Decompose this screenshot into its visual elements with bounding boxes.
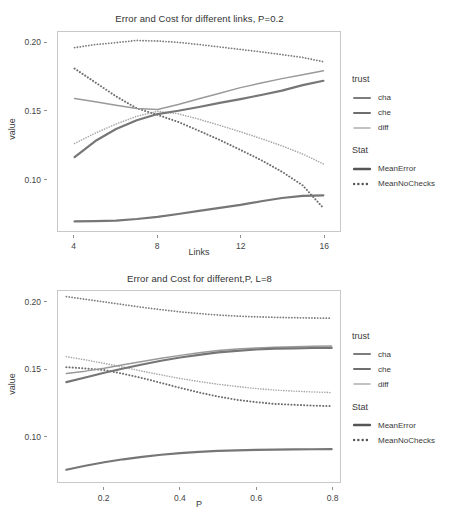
series-line xyxy=(75,40,324,61)
chart-figure-links: Error and Cost for different links, P=0.… xyxy=(0,0,449,261)
y-tick-mark xyxy=(44,301,47,302)
legend-item-label: MeanNoChecks xyxy=(378,436,435,445)
x-axis-title-1: Links xyxy=(57,247,341,257)
y-tick-label: 0.15 xyxy=(24,364,41,374)
legend-item-label: cha xyxy=(378,93,391,102)
legend-key-icon xyxy=(352,92,372,104)
legend-key-icon xyxy=(352,434,372,446)
y-axis-title-2: value xyxy=(7,354,17,414)
x-tick-mark xyxy=(324,235,325,238)
legend-item-label: MeanNoChecks xyxy=(378,179,435,188)
y-tick-mark xyxy=(44,369,47,370)
y-tick-label: 0.20 xyxy=(24,297,41,307)
x-tick-mark xyxy=(73,235,74,238)
y-tick-mark xyxy=(44,110,47,111)
legend-group: trustchachediff xyxy=(352,331,435,392)
legend-item[interactable]: diff xyxy=(352,120,435,135)
series-line xyxy=(66,356,331,392)
legend-item-label: che xyxy=(378,365,391,374)
chart-title-1: Error and Cost for different links, P=0.… xyxy=(0,13,449,24)
legend-group: StatMeanErrorMeanNoChecks xyxy=(352,402,435,448)
plot-panel-1 xyxy=(57,31,341,232)
legend-item[interactable]: MeanNoChecks xyxy=(352,176,435,191)
legend-group: StatMeanErrorMeanNoChecks xyxy=(352,145,435,191)
legend-group-title: Stat xyxy=(352,145,435,155)
legend-key-icon xyxy=(352,348,372,360)
y-tick-mark xyxy=(44,42,47,43)
series-line xyxy=(66,296,331,318)
legend-item-label: MeanError xyxy=(378,421,416,430)
legend-item[interactable]: MeanError xyxy=(352,161,435,176)
legend-item-label: che xyxy=(378,108,391,117)
series-line xyxy=(66,346,331,374)
y-tick-label: 0.20 xyxy=(24,37,41,47)
legend-item[interactable]: cha xyxy=(352,347,435,362)
x-tick-mark xyxy=(332,487,333,490)
chart-title-2: Error and Cost for different,P, L=8 xyxy=(0,273,449,284)
legend-item[interactable]: MeanError xyxy=(352,418,435,433)
x-tick-mark xyxy=(256,487,257,490)
legend-item-label: cha xyxy=(378,350,391,359)
x-tick-mark xyxy=(240,235,241,238)
plot-lines-2 xyxy=(58,291,340,482)
y-tick-label: 0.15 xyxy=(24,106,41,116)
legend-key-icon xyxy=(352,363,372,375)
legend-item[interactable]: cha xyxy=(352,90,435,105)
legend-group-title: trust xyxy=(352,331,435,341)
legend-item[interactable]: che xyxy=(352,105,435,120)
series-line xyxy=(75,81,324,157)
x-axis-title-2: P xyxy=(57,499,341,509)
legend-group: trustchachediff xyxy=(352,74,435,135)
x-tick-mark xyxy=(179,487,180,490)
y-tick-label: 0.10 xyxy=(24,175,41,185)
chart-figure-p: Error and Cost for different,P, L=8 0.20… xyxy=(0,261,449,521)
legend-2: trustchachediffStatMeanErrorMeanNoChecks xyxy=(352,331,435,458)
legend-item-label: MeanError xyxy=(378,164,416,173)
series-line xyxy=(66,449,331,470)
x-tick-mark xyxy=(103,487,104,490)
legend-key-icon xyxy=(352,122,372,134)
x-tick-mark xyxy=(157,235,158,238)
legend-key-icon xyxy=(352,107,372,119)
legend-item-label: diff xyxy=(378,123,389,132)
legend-group-title: Stat xyxy=(352,402,435,412)
series-line xyxy=(75,111,324,164)
y-axis-title-1: value xyxy=(7,99,17,159)
y-tick-mark xyxy=(44,179,47,180)
legend-key-icon xyxy=(352,163,372,175)
legend-item[interactable]: che xyxy=(352,362,435,377)
legend-1: trustchachediffStatMeanErrorMeanNoChecks xyxy=(352,74,435,201)
y-tick-mark xyxy=(44,436,47,437)
plot-lines-1 xyxy=(58,32,340,231)
plot-panel-2 xyxy=(57,290,341,483)
legend-group-title: trust xyxy=(352,74,435,84)
series-line xyxy=(75,195,324,221)
legend-key-icon xyxy=(352,378,372,390)
legend-item[interactable]: MeanNoChecks xyxy=(352,433,435,448)
y-tick-label: 0.10 xyxy=(24,432,41,442)
legend-key-icon xyxy=(352,178,372,190)
legend-key-icon xyxy=(352,419,372,431)
legend-item-label: diff xyxy=(378,380,389,389)
legend-item[interactable]: diff xyxy=(352,377,435,392)
